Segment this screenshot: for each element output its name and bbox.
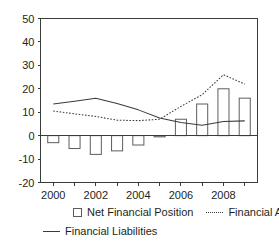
x-axis-ticks: 20002002200420062008 (41, 183, 245, 201)
dotted-line-icon (206, 212, 223, 213)
legend-label-net-financial-position: Net Financial Position (87, 206, 193, 218)
x-tick-label: 2006 (169, 189, 193, 201)
legend-item-net-financial-position[interactable]: Net Financial Position (73, 206, 193, 218)
bar (90, 136, 101, 155)
bar-series-net-financial-position (48, 89, 251, 155)
y-tick-label: 30 (22, 59, 34, 71)
bar (197, 104, 208, 136)
legend-item-financial-liabilities[interactable]: Financial Liabilities (43, 225, 157, 237)
bar (112, 136, 123, 151)
chart-figure: 50403020100-10-20 20002002200420062008 N… (0, 0, 279, 250)
y-tick-label: 50 (22, 13, 34, 25)
y-axis-ticks: 50403020100-10-20 (19, 13, 41, 189)
x-tick-label: 2002 (84, 189, 108, 201)
bar (218, 89, 229, 136)
legend-label-financial-liabilities: Financial Liabilities (65, 225, 157, 237)
x-tick-label: 2000 (41, 189, 65, 201)
y-tick-label: -20 (19, 177, 35, 189)
legend-row-1: Net Financial Position Financial Assets (0, 206, 279, 218)
line-series-financial-liabilities (53, 98, 244, 125)
bar (239, 98, 250, 135)
legend-item-financial-assets[interactable]: Financial Assets (206, 206, 279, 218)
legend-label-financial-assets: Financial Assets (228, 206, 279, 218)
open-square-icon (73, 208, 82, 217)
y-tick-label: 20 (22, 83, 34, 95)
chart-legend: Net Financial Position Financial Assets … (0, 206, 279, 237)
solid-line-icon (43, 231, 60, 232)
y-tick-label: 0 (28, 130, 34, 142)
bar (48, 136, 59, 143)
bar (133, 136, 144, 145)
y-tick-label: 10 (22, 106, 34, 118)
x-tick-label: 2008 (211, 189, 235, 201)
legend-row-2: Financial Liabilities (0, 225, 279, 237)
y-tick-label: -10 (19, 153, 35, 165)
y-tick-label: 40 (22, 36, 34, 48)
bar (69, 136, 80, 149)
x-tick-label: 2004 (126, 189, 150, 201)
